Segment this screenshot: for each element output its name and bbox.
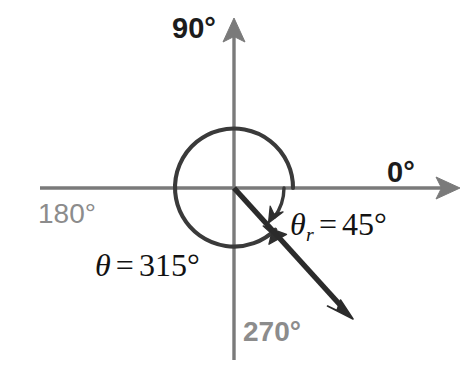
theta-r-symbol: θ	[290, 206, 306, 242]
theta-equals-sign: =	[111, 247, 139, 283]
reference-angle-arc	[269, 188, 285, 223]
theta-r-value: 45°	[342, 206, 387, 242]
theta-equation-label: θ=315°	[95, 249, 200, 281]
axis-label-90-degrees: 90°	[172, 14, 216, 43]
theta-r-equals-sign: =	[314, 206, 342, 242]
axis-label-0-degrees: 0°	[387, 158, 415, 187]
theta-value: 315°	[139, 247, 200, 283]
theta-r-subscript: r	[306, 223, 314, 245]
diagram-canvas: 90° 0° 180° 270° θ=315° θr=45°	[0, 0, 475, 377]
theta-symbol: θ	[95, 247, 111, 283]
axis-label-180-degrees: 180°	[38, 200, 96, 228]
axis-label-270-degrees: 270°	[243, 318, 301, 346]
angle-diagram-graphic	[0, 0, 475, 377]
reference-angle-equation-label: θr=45°	[290, 208, 387, 245]
terminal-ray-arrowhead-icon	[328, 300, 354, 319]
